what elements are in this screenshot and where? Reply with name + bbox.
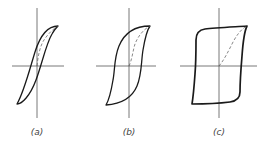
panel-b-hysteresis-loop xyxy=(106,26,150,105)
panel-b-label: (b) xyxy=(114,127,144,137)
panel-a-label: (a) xyxy=(22,127,52,137)
panel-c-label: (c) xyxy=(204,127,234,137)
panel-c xyxy=(180,8,257,118)
panel-a xyxy=(12,8,64,118)
panel-b xyxy=(96,8,156,118)
panel-a-hysteresis-loop xyxy=(17,26,58,104)
